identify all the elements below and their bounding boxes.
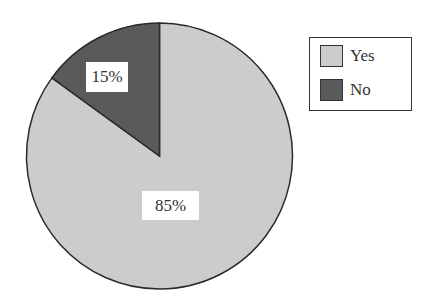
slice-label-yes: 85% [142, 191, 199, 220]
legend-item-no: No [320, 79, 371, 101]
legend-item-yes: Yes [320, 45, 375, 67]
legend-label-yes: Yes [350, 46, 375, 66]
legend-swatch-yes [320, 45, 343, 67]
legend: Yes No [309, 37, 412, 111]
legend-label-no: No [350, 80, 371, 100]
legend-swatch-no [320, 79, 343, 101]
slice-label-no: 15% [86, 62, 128, 92]
